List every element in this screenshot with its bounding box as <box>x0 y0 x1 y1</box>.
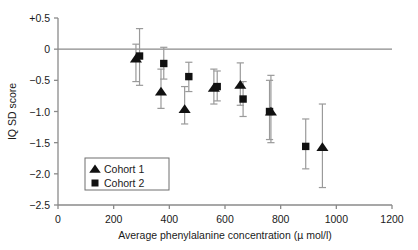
data-point-cohort-2 <box>302 143 309 150</box>
y-tick-label: −1.0 <box>29 106 50 118</box>
x-tick-label: 400 <box>161 213 179 225</box>
y-tick-label: −2.5 <box>29 199 50 211</box>
data-point-cohort-2 <box>160 60 167 67</box>
legend-marker-square-icon <box>92 180 99 187</box>
y-axis-title: IQ SD score <box>6 83 18 140</box>
x-tick-label: 1200 <box>380 213 404 225</box>
data-point-cohort-2 <box>266 108 273 115</box>
x-tick-label: 0 <box>55 213 61 225</box>
x-tick-label: 600 <box>216 213 234 225</box>
data-point-cohort-1 <box>179 104 191 113</box>
data-point-cohort-1 <box>316 142 328 151</box>
x-tick-label: 800 <box>272 213 290 225</box>
data-point-cohort-2 <box>185 73 192 80</box>
data-point-cohort-1 <box>155 87 167 96</box>
data-point-cohort-2 <box>136 52 143 59</box>
legend-label: Cohort 2 <box>104 177 144 189</box>
x-axis-title: Average phenylalanine concentration (µ m… <box>118 229 332 241</box>
y-tick-label: −2.0 <box>29 168 50 180</box>
y-tick-label: +0.5 <box>29 12 50 24</box>
data-point-cohort-2 <box>239 95 246 102</box>
x-tick-label: 200 <box>105 213 123 225</box>
scatter-plot: +0.50−0.5−1.0−1.5−2.0−2.5020040060080010… <box>0 0 418 250</box>
data-point-cohort-2 <box>214 83 221 90</box>
y-tick-label: −1.5 <box>29 137 50 149</box>
y-tick-label: 0 <box>44 43 50 55</box>
y-tick-label: −0.5 <box>29 74 50 86</box>
legend-label: Cohort 1 <box>104 163 144 175</box>
chart-figure: +0.50−0.5−1.0−1.5−2.0−2.5020040060080010… <box>0 0 418 250</box>
x-tick-label: 1000 <box>325 213 349 225</box>
